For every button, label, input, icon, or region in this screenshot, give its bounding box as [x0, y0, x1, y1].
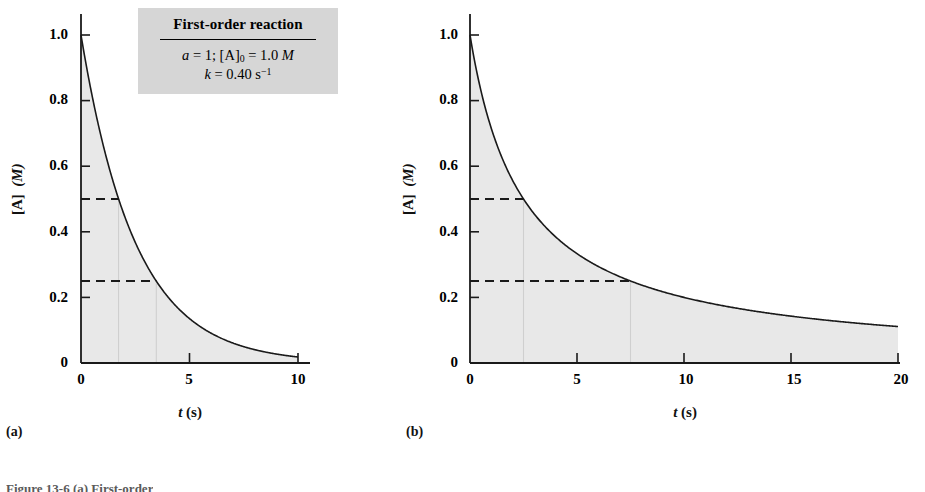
y-axis-title-unit: (M)	[9, 163, 25, 186]
param-k-exponent: −1	[261, 66, 271, 77]
y-axis-title-second-order: [A] (M)	[400, 163, 417, 215]
y-tick-label: 0.6	[24, 157, 68, 174]
panel-first-order: 1.0 0.8 0.6 0.4 0.2 0 0 5 10 t (s) [A] (…	[0, 0, 460, 440]
y-tick-label: 0.4	[412, 223, 458, 240]
y-tick-label: 0.8	[412, 91, 458, 108]
x-axis-title-second-order: t (s)	[630, 404, 740, 421]
area-fill-second-order	[470, 35, 898, 363]
info-box-rate-constant: k = 0.40 s−1	[152, 65, 324, 85]
x-tick-label: 0	[61, 371, 101, 388]
param-k-value: = 0.40	[211, 67, 255, 83]
y-tick-label: 1.0	[24, 26, 68, 43]
panel-second-order: 1.0 0.8 0.6 0.4 0.2 0 0 5 10 15 20 t (s)…	[400, 0, 925, 440]
param-a0-value: = 1.0	[245, 47, 282, 63]
x-tick-label: 10	[664, 371, 708, 388]
x-tick-label: 5	[557, 371, 597, 388]
x-tick-label: 5	[169, 371, 209, 388]
x-axis-title-unit: (s)	[677, 404, 697, 420]
x-tick-label: 20	[879, 371, 923, 388]
param-a-equals: = 1; [A]	[189, 47, 239, 63]
y-tick-label: 1.0	[412, 26, 458, 43]
y-axis-title-unit: (M)	[400, 163, 416, 186]
param-a0-unit: M	[282, 47, 294, 63]
panel-letter-a: (a)	[6, 424, 22, 440]
info-box-title: First-order reaction	[152, 15, 324, 35]
figure-caption-partial: Figure 13-6 (a) First-order	[6, 481, 153, 492]
y-tick-label: 0	[24, 354, 68, 371]
x-tick-label: 15	[772, 371, 816, 388]
y-tick-label: 0.6	[412, 157, 458, 174]
x-axis-title-unit: (s)	[182, 404, 202, 420]
info-box-first-order: First-order reaction a = 1; [A]0 = 1.0 M…	[138, 8, 338, 94]
y-tick-label: 0.8	[24, 91, 68, 108]
panel-letter-b: (b)	[406, 424, 423, 440]
y-tick-label: 0.4	[24, 223, 68, 240]
x-tick-label: 0	[450, 371, 490, 388]
y-axis-title-first-order: [A] (M)	[9, 163, 26, 215]
x-tick-label: 10	[276, 371, 320, 388]
info-box-initial-conditions: a = 1; [A]0 = 1.0 M	[152, 46, 324, 65]
info-box-divider	[160, 39, 316, 40]
y-tick-label: 0	[412, 354, 458, 371]
y-axis-title-symbol: [A]	[400, 194, 416, 215]
y-tick-label: 0.2	[24, 289, 68, 306]
y-tick-label: 0.2	[412, 289, 458, 306]
x-axis-title-first-order: t (s)	[135, 404, 245, 421]
figure-root: 1.0 0.8 0.6 0.4 0.2 0 0 5 10 t (s) [A] (…	[0, 0, 925, 492]
y-axis-title-symbol: [A]	[9, 194, 25, 215]
